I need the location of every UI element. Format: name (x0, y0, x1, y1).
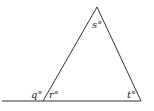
right-side (97, 7, 141, 101)
triangle-diagram: s° q° r° t° (0, 0, 154, 111)
angle-label-t: t° (127, 89, 136, 100)
angle-label-q: q° (31, 89, 42, 100)
angle-label-s: s° (92, 19, 102, 30)
angle-label-r: r° (49, 89, 59, 100)
left-side (43, 7, 97, 101)
